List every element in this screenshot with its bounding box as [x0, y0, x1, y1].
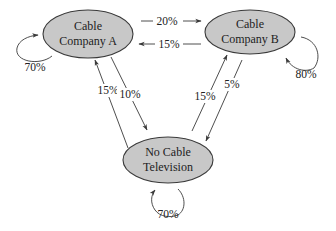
- node-c-label-line1: No Cable: [145, 145, 191, 159]
- node-cable-company-b: Cable Company B: [205, 10, 295, 54]
- arrow-up-icon: [95, 60, 128, 148]
- edge-label-c-to-a: 15%: [97, 84, 119, 96]
- node-b-label-line1: Cable: [236, 17, 264, 31]
- edge-label-a-self: 70%: [24, 61, 46, 73]
- node-b-label-line2: Company B: [221, 32, 279, 46]
- node-no-cable-television: No Cable Television: [123, 137, 213, 183]
- edge-label-b-to-a: 15%: [158, 38, 180, 50]
- edge-a-to-b: 20%: [141, 13, 201, 27]
- node-a-label-line2: Company A: [59, 34, 117, 48]
- node-c-label-line2: Television: [143, 160, 193, 174]
- edge-b-to-a: 15%: [139, 37, 201, 51]
- edge-c-self-loop: 70%: [152, 189, 184, 220]
- edge-label-a-to-b: 20%: [156, 15, 178, 27]
- edge-c-to-b: 15%: [192, 55, 227, 131]
- edge-label-c-self: 70%: [157, 208, 179, 220]
- transition-diagram: Cable Company A Cable Company B No Cable…: [0, 0, 336, 231]
- edge-label-c-to-b: 15%: [194, 90, 216, 102]
- edge-b-self-loop: 80%: [286, 37, 318, 80]
- edge-label-b-to-c: 5%: [224, 78, 240, 90]
- edge-c-to-a: 15%: [95, 60, 128, 148]
- edge-label-b-self: 80%: [295, 68, 317, 80]
- node-a-label-line1: Cable: [74, 19, 102, 33]
- edge-label-a-to-c: 10%: [119, 88, 141, 100]
- node-cable-company-a: Cable Company A: [43, 10, 133, 58]
